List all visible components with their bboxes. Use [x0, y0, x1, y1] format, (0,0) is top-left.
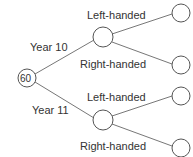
- leaf-node-2: [172, 56, 190, 74]
- root-value: 60: [20, 73, 31, 84]
- leaf-node-1: [172, 4, 190, 22]
- leaf-label-left-handed-2: Left-handed: [87, 92, 146, 103]
- tree-diagram: 60 Year 10 Year 11 Left-handed Right-han…: [0, 0, 193, 157]
- leaf-label-left-handed-1: Left-handed: [87, 10, 146, 21]
- year10-node: [93, 27, 113, 47]
- leaf-label-right-handed-2: Right-handed: [80, 141, 146, 152]
- year11-node: [93, 110, 113, 130]
- branch-label-year-10: Year 10: [30, 42, 68, 53]
- branch-label-year-11: Year 11: [32, 105, 69, 116]
- leaf-node-4: [172, 139, 190, 157]
- leaf-node-3: [172, 87, 190, 105]
- leaf-label-right-handed-1: Right-handed: [80, 59, 146, 70]
